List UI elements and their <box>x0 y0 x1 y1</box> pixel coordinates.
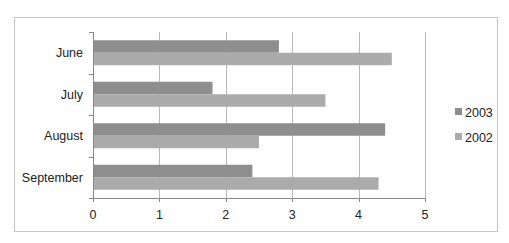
bar-2003-july <box>94 82 213 95</box>
category-label: September <box>22 171 83 185</box>
bar-2002-september <box>94 177 379 190</box>
x-tick-label: 0 <box>90 208 97 222</box>
x-tick-label: 3 <box>289 208 296 222</box>
category-label: June <box>56 46 83 60</box>
legend-label-2002: 2002 <box>465 131 493 145</box>
category-labels: JuneJulyAugustSeptember <box>22 46 84 185</box>
bar-2003-september <box>94 165 252 178</box>
x-tick-label: 1 <box>156 208 163 222</box>
legend-swatch-2002 <box>455 133 462 140</box>
bar-chart: JuneJulyAugustSeptember 012345 20032002 <box>0 0 509 243</box>
bars <box>94 40 392 190</box>
tick-labels: 012345 <box>90 208 429 222</box>
x-tick-label: 2 <box>222 208 229 222</box>
bar-2003-june <box>94 40 279 53</box>
legend-label-2003: 2003 <box>465 106 493 120</box>
category-label: July <box>61 88 84 102</box>
bar-2003-august <box>94 123 385 136</box>
legend-swatch-2003 <box>455 108 462 115</box>
category-label: August <box>44 129 83 143</box>
legend: 20032002 <box>455 106 493 145</box>
bar-2002-august <box>94 136 259 149</box>
x-tick-label: 5 <box>422 208 429 222</box>
x-tick-label: 4 <box>355 208 362 222</box>
bar-2002-june <box>94 53 392 66</box>
bar-2002-july <box>94 94 325 107</box>
